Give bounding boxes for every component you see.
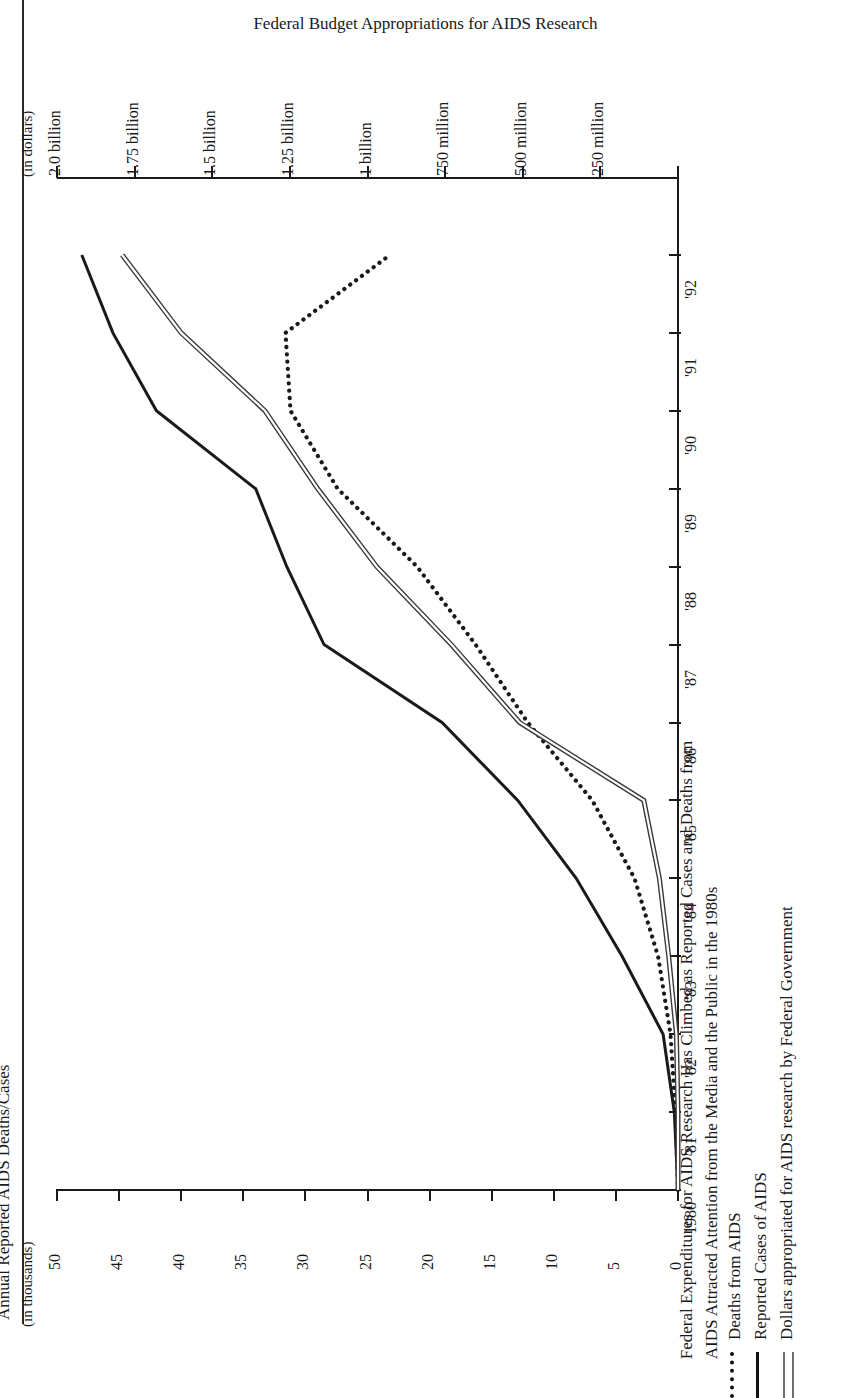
caption-line-1: Federal Expenditures for AIDS Research H… <box>675 359 700 1359</box>
legend-label: Deaths from AIDS <box>722 1213 748 1340</box>
legend-key-solid-icon <box>756 1352 771 1398</box>
series-deaths-from-aids <box>286 255 679 1190</box>
legend-key-double-icon <box>783 1352 794 1398</box>
series-dollars-appropriated <box>122 255 678 1190</box>
caption-line-2: AIDS Attracted Attention from the Media … <box>699 359 724 1359</box>
figure-caption: Federal Expenditures for AIDS Research H… <box>675 359 724 1359</box>
legend-item: Reported Cases of AIDS <box>748 838 774 1398</box>
legend-label: Reported Cases of AIDS <box>748 1172 774 1340</box>
legend-item: Deaths from AIDS <box>722 838 748 1398</box>
legend-label: Dollars appropriated for AIDS research b… <box>774 906 800 1340</box>
series-reported-cases <box>82 255 678 1190</box>
chart-legend: Deaths from AIDSReported Cases of AIDSDo… <box>722 838 800 1398</box>
legend-item: Dollars appropriated for AIDS research b… <box>774 838 800 1398</box>
legend-key-dotted-icon <box>730 1352 746 1398</box>
